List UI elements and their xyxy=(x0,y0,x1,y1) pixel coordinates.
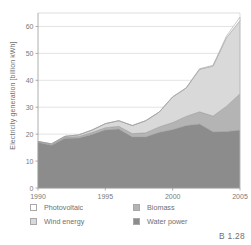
legend-item-biomass[interactable]: Biomass xyxy=(133,203,175,212)
chart-plot-area: Electricity generation [billion kWh] 010… xyxy=(0,0,251,200)
legend-item-wind-energy[interactable]: Wind energy xyxy=(30,217,84,226)
legend-swatch-biomass xyxy=(133,204,140,211)
y-tick-label: 0 xyxy=(30,185,34,192)
x-tick-label: 1990 xyxy=(30,193,46,200)
legend-label-wind-energy: Wind energy xyxy=(44,217,84,226)
y-tick-label: 40 xyxy=(26,77,34,84)
legend-item-photovoltaic[interactable]: Photovoltaic xyxy=(30,203,83,212)
legend-item-water-power[interactable]: Water power xyxy=(133,217,187,226)
legend-label-water-power: Water power xyxy=(147,217,187,226)
chart-figure: Electricity generation [billion kWh] 010… xyxy=(0,0,251,245)
y-tick-label: 20 xyxy=(26,131,34,138)
legend-label-photovoltaic: Photovoltaic xyxy=(44,203,83,212)
x-tick-label: 2005 xyxy=(232,193,248,200)
y-tick-label: 10 xyxy=(26,158,34,165)
figure-caption: B 1.28 xyxy=(219,231,245,241)
legend-swatch-water-power xyxy=(133,218,140,225)
y-tick-label: 30 xyxy=(26,104,34,111)
legend-swatch-photovoltaic xyxy=(30,204,37,211)
x-tick-label: 2000 xyxy=(165,193,181,200)
x-tick-label: 1995 xyxy=(98,193,114,200)
chart-legend: Photovoltaic Wind energy Biomass Water p… xyxy=(0,200,251,232)
y-tick-label: 60 xyxy=(26,23,34,30)
legend-swatch-wind-energy xyxy=(30,218,37,225)
stacked-area-chart: 01020304050601990199520002005 xyxy=(0,0,251,200)
y-tick-label: 50 xyxy=(26,50,34,57)
legend-label-biomass: Biomass xyxy=(147,203,175,212)
